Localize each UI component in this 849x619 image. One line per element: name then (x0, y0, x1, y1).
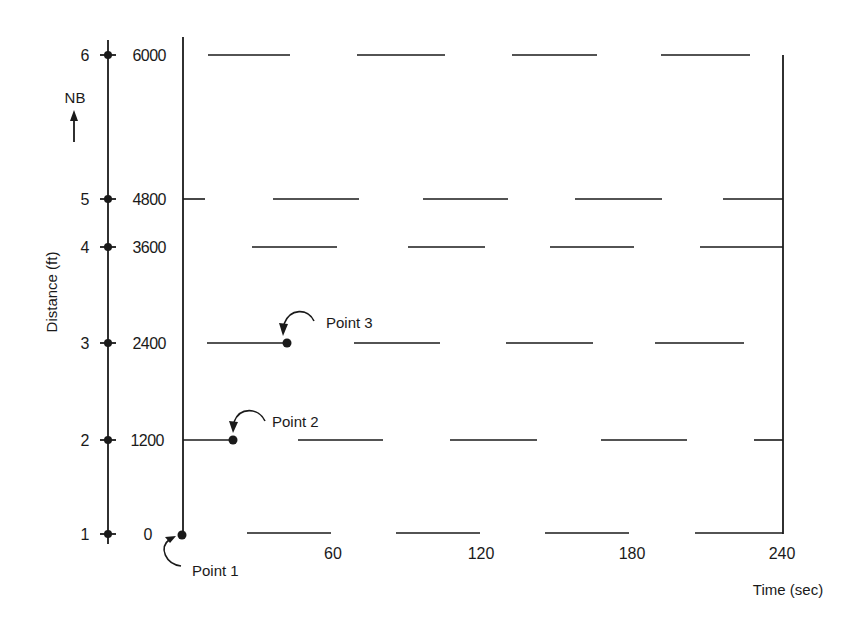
distance-label-4800: 4800 (132, 191, 166, 208)
x-axis-title: Time (sec) (753, 581, 823, 598)
point-2-label: Point 2 (272, 413, 319, 430)
node-id-5: 5 (81, 191, 90, 208)
point-3-label: Point 3 (326, 314, 373, 331)
time-tick-240: 240 (769, 545, 796, 562)
node-id-3: 3 (81, 335, 90, 352)
point-1-label: Point 1 (192, 562, 239, 579)
distance-label-3600: 3600 (132, 239, 166, 256)
node-marker-3 (100, 339, 116, 347)
y-axis-title: Distance (ft) (43, 252, 60, 333)
arrowhead-icon (279, 323, 288, 336)
distance-axis: 6 5 4 3 2 1 6000 4800 3600 2400 1200 0 N… (43, 40, 167, 544)
node-id-4: 4 (81, 239, 90, 256)
plot-frame (183, 37, 783, 535)
point-1-marker (164, 531, 186, 567)
distance-label-1200: 1200 (130, 432, 164, 449)
direction-label: NB (65, 89, 86, 106)
node-marker-6 (100, 51, 116, 59)
arrowhead-icon (229, 421, 238, 433)
node-marker-1 (100, 530, 116, 538)
distance-label-2400: 2400 (132, 335, 166, 352)
node-marker-5 (100, 195, 116, 203)
time-tick-180: 180 (619, 545, 646, 562)
point-3-marker (279, 312, 314, 348)
node-id-6: 6 (81, 47, 90, 64)
node-id-2: 2 (81, 432, 90, 449)
time-tick-60: 60 (324, 545, 342, 562)
time-tick-120: 120 (468, 545, 495, 562)
node-marker-4 (100, 243, 116, 251)
up-arrow-icon (70, 110, 78, 142)
time-space-diagram: 6 5 4 3 2 1 6000 4800 3600 2400 1200 0 N… (0, 0, 849, 619)
node-marker-2 (100, 436, 116, 444)
distance-label-0: 0 (144, 526, 153, 543)
node-id-1: 1 (81, 526, 90, 543)
distance-label-6000: 6000 (132, 47, 166, 64)
point-2-marker (229, 411, 266, 445)
